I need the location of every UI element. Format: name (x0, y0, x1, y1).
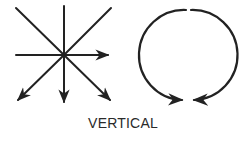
line-up-right (64, 8, 111, 55)
left-arc-arrow (139, 10, 186, 100)
starburst-arrows-icon (16, 6, 111, 102)
arrow-down-right (64, 55, 110, 100)
arrow-down-left (18, 55, 64, 100)
line-up-left (16, 8, 64, 55)
circular-arrows-icon (139, 10, 238, 100)
diagram-caption: VERTICAL (0, 115, 246, 131)
right-arc-arrow (191, 10, 238, 100)
